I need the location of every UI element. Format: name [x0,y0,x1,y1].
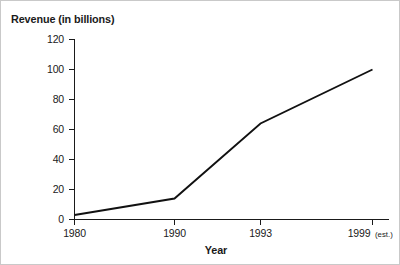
revenue-series-line [75,70,373,216]
x-tick-label-1990: 1990 [163,227,186,239]
chart-page: Revenue (in billions) 120 100 80 60 40 2… [0,0,400,265]
y-tick-label: 0 [58,213,64,225]
y-tick-label: 120 [47,33,64,45]
x-tick-label-1993: 1993 [249,227,272,239]
x-tick-label-1999: 1999 [348,227,371,239]
y-axis-title: Revenue (in billions) [11,13,115,25]
y-tick-label: 80 [53,93,65,105]
y-tick-label: 60 [53,123,65,135]
x-tick-label-1999-estimate: (est.) [375,230,393,239]
y-axis-labels: 120 100 80 60 40 20 0 [47,33,64,225]
y-axis-ticks [69,40,75,220]
x-axis-ticks [75,220,373,226]
x-axis-title: Year [205,244,228,256]
x-tick-label-1980: 1980 [63,227,86,239]
y-tick-label: 20 [53,183,65,195]
x-axis-labels: 1980 1990 1993 1999 (est.) [63,227,393,239]
revenue-line-chart: Revenue (in billions) 120 100 80 60 40 2… [1,1,400,265]
y-tick-label: 40 [53,153,65,165]
y-tick-label: 100 [47,63,64,75]
